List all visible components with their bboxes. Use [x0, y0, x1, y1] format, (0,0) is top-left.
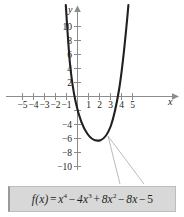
formula-operator: − — [67, 193, 77, 205]
x-tick-label: 3 — [108, 100, 113, 110]
formula-lhs: f(x) — [32, 193, 49, 205]
x-tick-label: −2 — [50, 100, 60, 110]
x-tick-label: 5 — [130, 100, 135, 110]
formula-term: 8x2 — [102, 193, 117, 205]
graph-figure: −5 −4 −3 −2 −1 1 2 3 4 5 10 8 6 4 2 −4 −… — [0, 0, 184, 217]
y-tick-label: −10 — [57, 162, 72, 172]
formula-operator: + — [92, 193, 102, 205]
y-tick-label: −8 — [62, 148, 72, 158]
formula-operator: − — [138, 193, 148, 205]
x-tick-label: −1 — [61, 100, 71, 110]
x-tick-label: 4 — [119, 100, 124, 110]
y-tick-label: −4 — [62, 120, 72, 130]
x-axis — [6, 93, 179, 100]
y-axis-label: y — [67, 4, 73, 15]
x-tick-label: −5 — [17, 100, 27, 110]
formula-term: 5 — [147, 193, 153, 205]
function-formula: f(x)=x4−4x3+8x2−8x−5 — [32, 193, 153, 205]
formula-term: 8x — [126, 193, 137, 205]
x-tick-label: −4 — [28, 100, 38, 110]
x-tick-label: −3 — [39, 100, 49, 110]
formula-callout-box: f(x)=x4−4x3+8x2−8x−5 — [8, 186, 176, 212]
x-axis-label: x — [167, 96, 173, 107]
function-curve — [66, 5, 129, 141]
formula-term: x4 — [58, 193, 67, 205]
y-tick-label: −6 — [62, 134, 72, 144]
callout-leader-lines — [108, 136, 144, 184]
formula-operator: − — [117, 193, 127, 205]
formula-equals: = — [49, 193, 59, 205]
formula-term: 4x3 — [77, 193, 92, 205]
coordinate-plot: −5 −4 −3 −2 −1 1 2 3 4 5 10 8 6 4 2 −4 −… — [0, 0, 184, 217]
x-tick-label: 1 — [86, 100, 91, 110]
y-axis — [74, 6, 81, 171]
x-tick-label: 2 — [97, 100, 102, 110]
